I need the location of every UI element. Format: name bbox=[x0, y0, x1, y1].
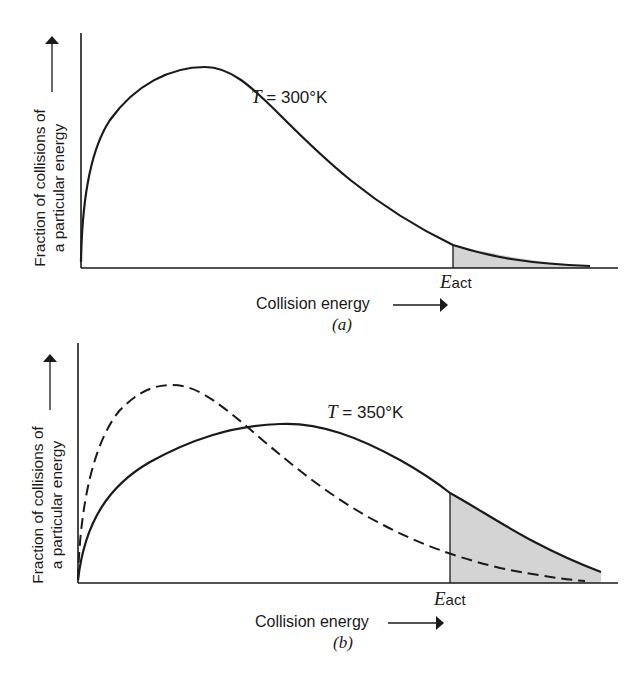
panel-b-y-axis-label-line2: a particular energy bbox=[47, 400, 66, 610]
panel-a-x-axis-label: Collision energy bbox=[256, 295, 370, 313]
panel-b-y-axis-label-line1: Fraction of collisions of bbox=[28, 400, 47, 610]
panel-b-x-axis-label: Collision energy bbox=[255, 613, 369, 631]
panel-a-y-arrow-head-icon bbox=[45, 36, 59, 44]
panel-a-y-axis-label-line1: Fraction of collisions of bbox=[30, 88, 49, 288]
panel-a-curve-300k bbox=[81, 67, 590, 266]
panel-a-temperature-value: = 300°K bbox=[262, 88, 328, 107]
panel-a-plot bbox=[45, 33, 618, 312]
panel-b-eact-symbol: E bbox=[434, 588, 446, 609]
panel-b-x-arrow-head-icon bbox=[436, 616, 444, 630]
panel-a-temperature-label: T = 300°K bbox=[251, 86, 327, 108]
panel-b-plot bbox=[43, 343, 618, 630]
panel-a-y-axis-label: Fraction of collisions of a particular e… bbox=[30, 88, 68, 288]
panel-b-y-axis-label: Fraction of collisions of a particular e… bbox=[28, 400, 66, 610]
panel-b-temperature-symbol: T bbox=[327, 401, 338, 422]
panel-b-eact-subscript: act bbox=[446, 591, 466, 608]
panel-b-caption: (b) bbox=[333, 633, 353, 653]
panel-a-caption: (a) bbox=[332, 315, 352, 335]
panel-a-eact-symbol: E bbox=[440, 271, 452, 292]
panel-b-temperature-value: = 350°K bbox=[338, 403, 404, 422]
panel-b-temperature-label: T = 350°K bbox=[327, 401, 403, 423]
panel-b-y-arrow-head-icon bbox=[43, 354, 57, 362]
panel-a-eact-label: Eact bbox=[440, 271, 472, 293]
panel-a-eact-subscript: act bbox=[452, 274, 472, 291]
panel-a-x-arrow-head-icon bbox=[440, 298, 448, 312]
panel-a-y-axis-label-line2: a particular energy bbox=[49, 88, 68, 288]
panel-b-eact-label: Eact bbox=[434, 588, 466, 610]
panel-a-temperature-symbol: T bbox=[251, 86, 262, 107]
